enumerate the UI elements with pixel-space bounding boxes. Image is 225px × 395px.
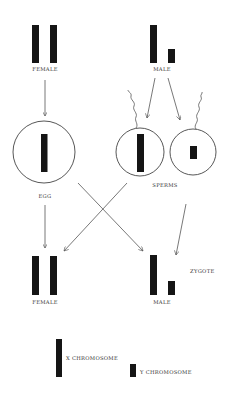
x-chromosome-icon [32,25,39,63]
parent-female-label: FEMALE [32,66,57,72]
parent-male: MALE [150,25,175,72]
zygote-male-label: MALE [153,299,171,305]
sperm-x [116,90,164,176]
y-chromosome-icon [168,281,175,295]
x-chromosome-icon [150,255,157,295]
arrow-sperm-y-to-male-zygote [176,204,186,255]
x-chromosome-icon [50,25,57,63]
sperm-tail-icon [195,92,202,129]
legend-x-label: X CHROMOSOME [66,355,118,361]
x-chromosome-icon [150,25,157,63]
x-chromosome-icon [41,134,48,172]
zygote-female: FEMALE [32,256,58,305]
y-chromosome-icon [190,146,197,159]
sperm-y [170,92,216,175]
legend-y-chromosome-icon [130,364,136,377]
legend-y-label: Y CHROMOSOME [139,369,192,375]
arrow-male-to-sperm-x [147,78,155,118]
egg-label: EGG [39,193,52,199]
y-chromosome-icon [168,49,175,63]
arrow-male-to-sperm-y [168,78,180,120]
x-chromosome-icon [137,134,144,172]
x-chromosome-icon [32,256,39,295]
sperm-tail-icon [128,90,137,128]
zygote-female-label: FEMALE [32,299,57,305]
arrow-egg-to-male-zygote [78,183,143,251]
legend: X CHROMOSOME Y CHROMOSOME [56,339,192,377]
zygote-label: ZYGOTE [190,268,214,274]
sex-determination-diagram: FEMALE MALE EGG SPERMS FEMALE [0,0,225,395]
parent-male-label: MALE [153,66,171,72]
sperms-label: SPERMS [152,182,178,188]
parent-female: FEMALE [32,25,58,72]
x-chromosome-icon [50,256,57,295]
zygote-male: MALE [150,255,175,305]
egg-cell: EGG [13,121,75,199]
arrow-sperm-x-to-female-zygote [64,183,127,251]
legend-x-chromosome-icon [56,339,62,377]
